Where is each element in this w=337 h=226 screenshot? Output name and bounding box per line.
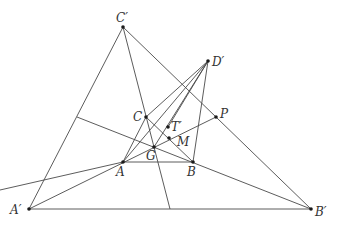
label-p: P — [219, 107, 229, 121]
segment-dp-c — [146, 61, 208, 117]
label-cp: C′ — [116, 11, 128, 25]
point-dp — [206, 59, 210, 63]
point-m — [167, 136, 171, 140]
point-cp — [121, 25, 125, 29]
geometry-diagram: C′D′CPT′MGABA′B′ — [0, 0, 337, 226]
point-a — [121, 160, 125, 164]
line-segments — [0, 27, 311, 209]
point-b — [191, 160, 195, 164]
label-tp: T′ — [171, 120, 182, 134]
point-p — [214, 115, 218, 119]
label-ap: A′ — [9, 203, 22, 217]
point-tp — [166, 125, 170, 129]
label-g: G — [146, 149, 156, 163]
point-labels: C′D′CPT′MGABA′B′ — [9, 11, 327, 219]
point-bp — [309, 207, 313, 211]
segment-dp-tp — [168, 61, 208, 127]
point-ap — [27, 207, 31, 211]
segment-left-line — [0, 162, 123, 190]
label-b: B — [186, 165, 196, 179]
label-a: A — [115, 165, 125, 179]
points — [27, 25, 313, 211]
segment-side-ap-cp — [29, 27, 123, 209]
label-c: C — [133, 110, 142, 124]
label-bp: B′ — [314, 205, 327, 219]
label-dp: D′ — [211, 55, 225, 69]
label-m: M — [176, 135, 190, 149]
point-c — [144, 115, 148, 119]
